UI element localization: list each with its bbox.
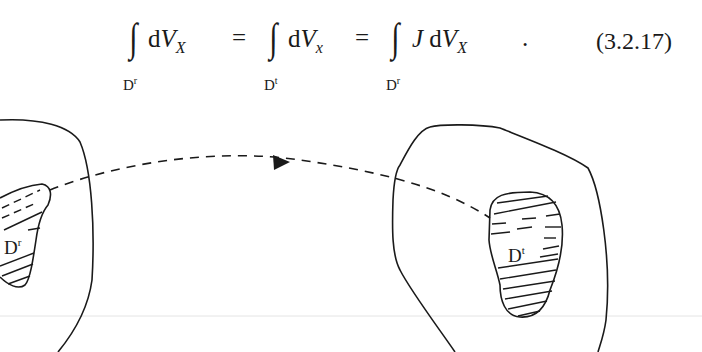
current-region [489,192,562,317]
motion-arrow-path [50,156,490,218]
deformation-figure [0,0,702,352]
current-body-outline [393,125,608,352]
current-region-label: Dt [508,240,525,266]
arrowhead-icon [273,155,290,170]
reference-region-label: Dr [4,232,21,258]
